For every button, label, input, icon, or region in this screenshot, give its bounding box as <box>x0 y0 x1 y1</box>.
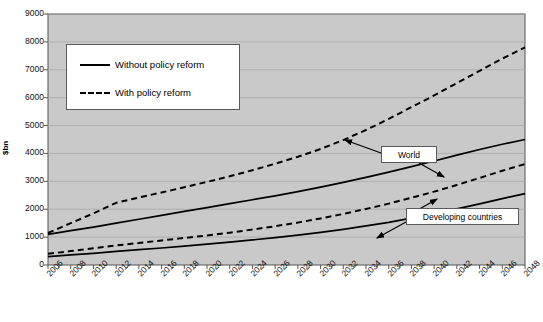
solid-line-swatch-icon <box>80 60 110 69</box>
annotation-label-developing-countries: Developing countries <box>406 208 519 225</box>
chart-container: $bn 010002000300040005000600070008000900… <box>0 0 543 322</box>
annotation-text: World <box>398 150 420 160</box>
annotation-label-world: World <box>381 146 437 163</box>
legend-item-label: With policy reform <box>115 87 191 98</box>
annotation-text: Developing countries <box>423 212 502 222</box>
legend-item-label: Without policy reform <box>115 59 204 70</box>
legend-item-with-policy-reform: With policy reform <box>80 87 191 98</box>
dashed-line-swatch-icon <box>80 88 110 97</box>
legend-item-without-policy-reform: Without policy reform <box>80 59 204 70</box>
legend: Without policy reform With policy reform <box>66 44 240 110</box>
